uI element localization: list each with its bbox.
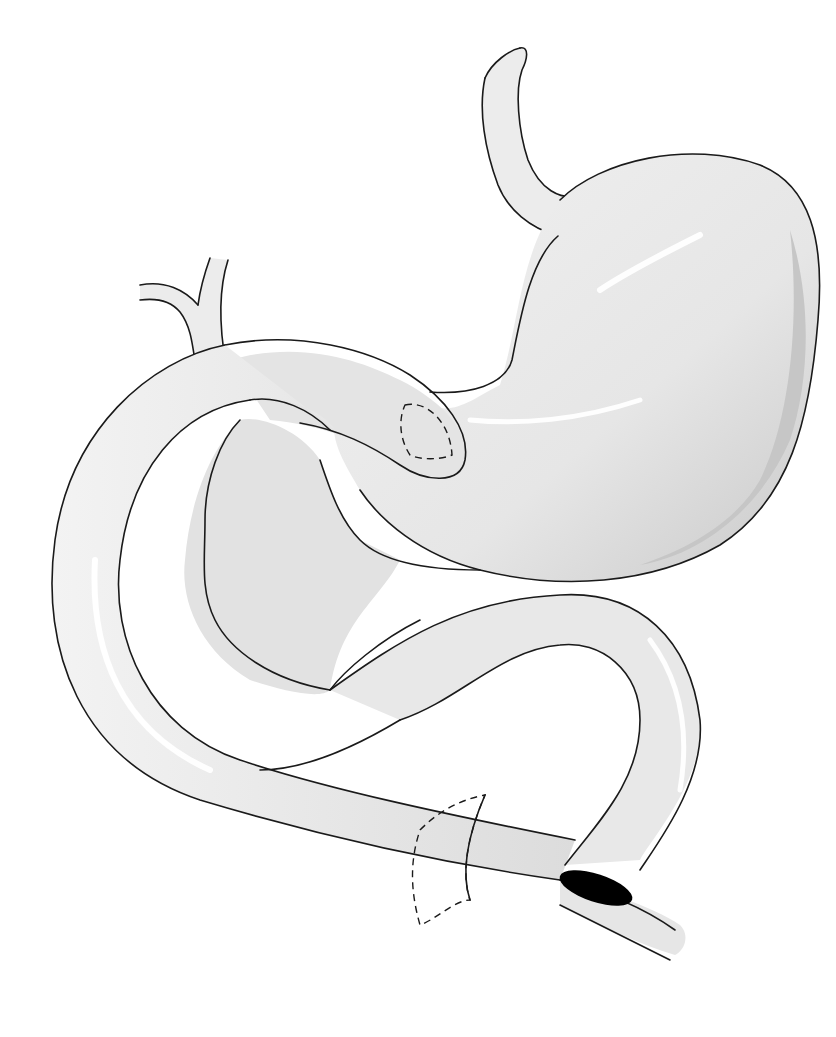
stomach (334, 154, 820, 581)
anatomical-diagram (0, 0, 836, 1037)
diagram-svg (0, 0, 836, 1037)
